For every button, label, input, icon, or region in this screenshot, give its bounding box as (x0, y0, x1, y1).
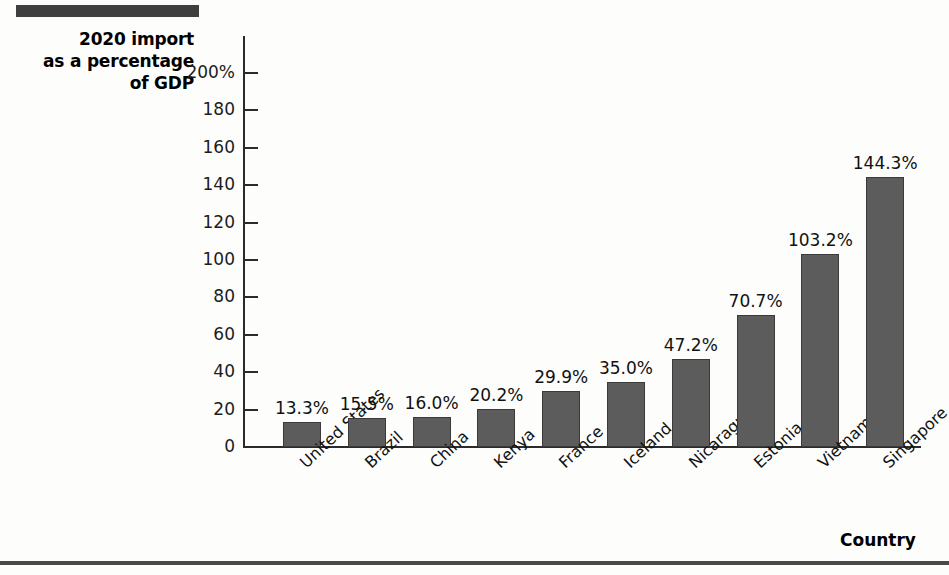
y-tick-label: 40 (165, 363, 235, 380)
y-tick-label: 120 (165, 214, 235, 231)
y-tick-mark (245, 184, 258, 186)
y-tick-mark (245, 371, 258, 373)
bar-value-label: 35.0% (581, 358, 671, 378)
y-tick-label: 180 (165, 101, 235, 118)
bar-value-label: 47.2% (646, 335, 736, 355)
y-tick-label: 100 (165, 251, 235, 268)
y-tick-label: 140 (165, 176, 235, 193)
bar-value-label: 144.3% (840, 153, 930, 173)
x-axis-title: Country (840, 530, 916, 550)
y-tick-label: 60 (165, 326, 235, 343)
y-tick-label: 200% (165, 64, 235, 81)
y-axis-spine (243, 36, 245, 448)
y-tick-mark (245, 334, 258, 336)
y-tick-mark (245, 147, 258, 149)
y-tick-label: 20 (165, 401, 235, 418)
bar-value-label: 70.7% (711, 291, 801, 311)
y-tick-mark (245, 296, 258, 298)
y-tick-mark (245, 446, 258, 448)
plot-area: 020406080100120140160180200%13.3%United … (0, 0, 949, 575)
chart-page: 2020 importas a percentageof GDP 0204060… (0, 0, 949, 575)
bar (607, 382, 645, 447)
bottom-decorative-rule (0, 561, 949, 565)
y-tick-label: 160 (165, 139, 235, 156)
y-tick-label: 0 (165, 438, 235, 455)
bar (672, 359, 710, 447)
bar (866, 177, 904, 447)
bar (801, 254, 839, 447)
y-tick-mark (245, 259, 258, 261)
y-tick-label: 80 (165, 288, 235, 305)
bar-value-label: 20.2% (451, 385, 541, 405)
y-tick-mark (245, 222, 258, 224)
y-tick-mark (245, 72, 258, 74)
y-tick-mark (245, 109, 258, 111)
bar (737, 315, 775, 447)
bar-value-label: 103.2% (775, 230, 865, 250)
